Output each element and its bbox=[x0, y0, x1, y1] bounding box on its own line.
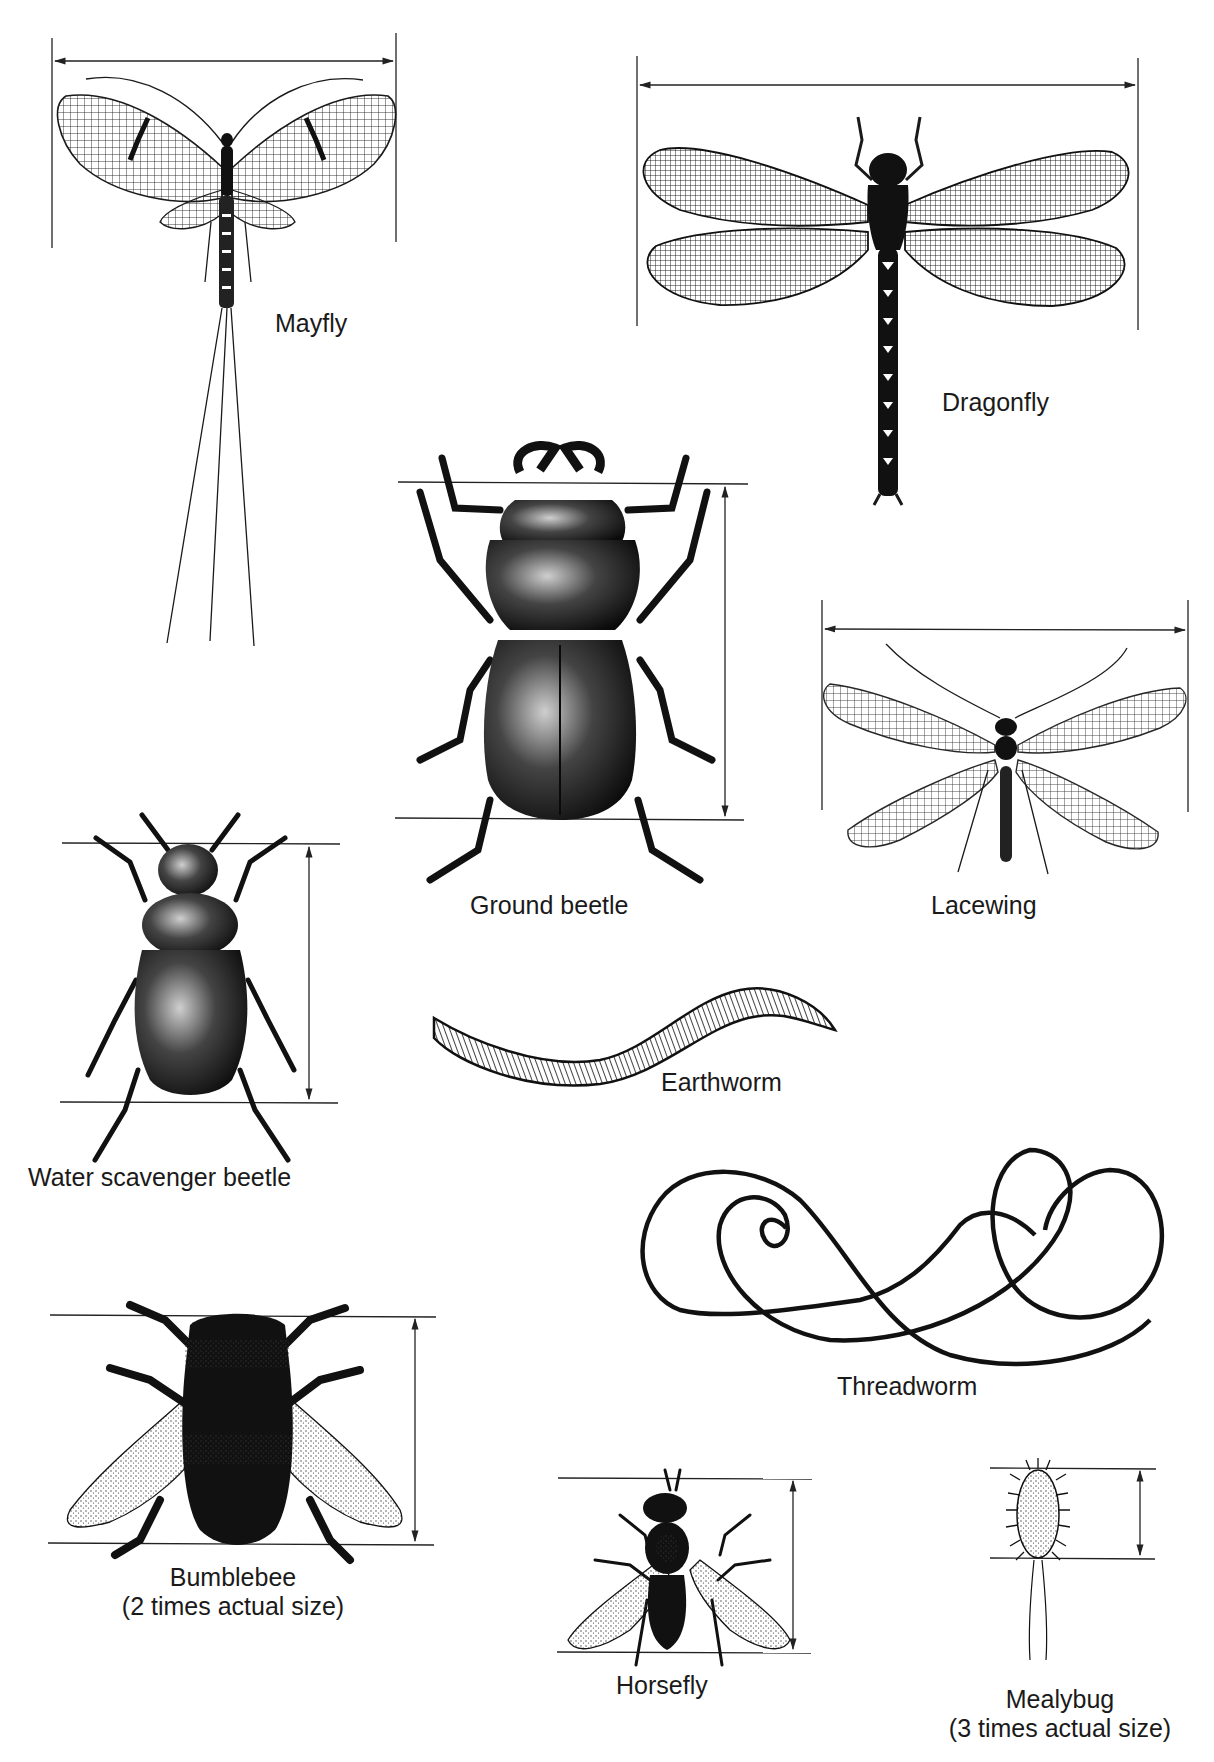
ground-beetle-illustration bbox=[395, 445, 748, 880]
lacewing-illustration bbox=[822, 600, 1188, 874]
bumblebee-name: Bumblebee bbox=[92, 1563, 374, 1592]
mayfly-illustration bbox=[52, 33, 396, 646]
bumblebee-scale-note: (2 times actual size) bbox=[92, 1592, 374, 1621]
label-water-scavenger-beetle: Water scavenger beetle bbox=[28, 1163, 291, 1192]
label-bumblebee: Bumblebee (2 times actual size) bbox=[92, 1563, 374, 1621]
threadworm-illustration bbox=[643, 1150, 1162, 1364]
mealybug-scale-note: (3 times actual size) bbox=[918, 1714, 1202, 1743]
illustrations bbox=[0, 0, 1214, 1762]
mealybug-name: Mealybug bbox=[918, 1685, 1202, 1714]
label-mayfly: Mayfly bbox=[275, 309, 347, 338]
figure-canvas: Mayfly Dragonfly Ground beetle Lacewing … bbox=[0, 0, 1214, 1762]
horsefly-illustration bbox=[557, 1470, 812, 1665]
water-scavenger-beetle-illustration bbox=[60, 815, 340, 1160]
bumblebee-illustration bbox=[48, 1305, 436, 1560]
label-lacewing: Lacewing bbox=[931, 891, 1037, 920]
label-threadworm: Threadworm bbox=[837, 1372, 977, 1401]
label-horsefly: Horsefly bbox=[616, 1671, 708, 1700]
label-ground-beetle: Ground beetle bbox=[470, 891, 628, 920]
label-mealybug: Mealybug (3 times actual size) bbox=[918, 1685, 1202, 1743]
label-dragonfly: Dragonfly bbox=[942, 388, 1049, 417]
label-earthworm: Earthworm bbox=[661, 1068, 782, 1097]
mealybug-illustration bbox=[990, 1458, 1156, 1660]
dragonfly-illustration bbox=[637, 56, 1138, 505]
